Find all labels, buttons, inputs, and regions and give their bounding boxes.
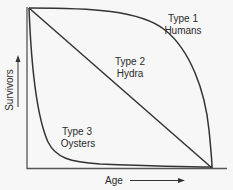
survivorship-chart: Type 1 Humans Type 2 Hydra Type 3 Oyster… <box>0 0 233 190</box>
x-axis-label: Age <box>105 175 123 186</box>
y-axis-label: Survivors <box>4 69 15 111</box>
y-axis-arrow-icon <box>16 55 21 62</box>
type2-label-line2: Hydra <box>117 68 144 79</box>
type3-label-line1: Type 3 <box>62 126 92 137</box>
type2-label-line1: Type 2 <box>115 56 145 67</box>
chart-canvas: Type 1 Humans Type 2 Hydra Type 3 Oyster… <box>0 0 233 190</box>
x-axis-arrow-icon <box>178 178 185 183</box>
type1-label-line2: Humans <box>164 25 201 36</box>
type1-label-line1: Type 1 <box>168 13 198 24</box>
type3-label-line2: Oysters <box>61 138 95 149</box>
